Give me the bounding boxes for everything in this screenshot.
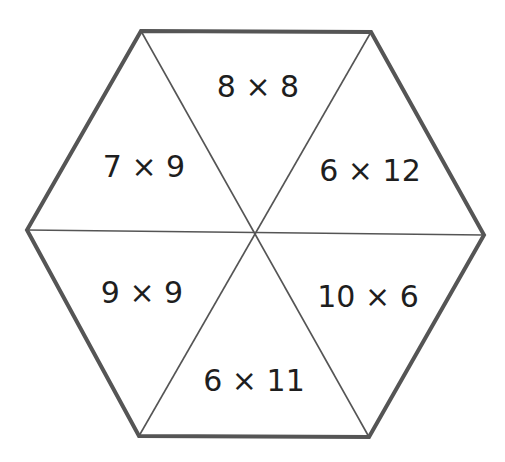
- segment-label-bottom: 6 × 11: [203, 363, 304, 398]
- segment-label-lower-right: 10 × 6: [317, 279, 418, 314]
- segment-label-upper-left: 7 × 9: [103, 149, 185, 184]
- segment-label-lower-left: 9 × 9: [101, 275, 183, 310]
- hexagon-diagram: 8 × 8 7 × 9 6 × 12 9 × 9 10 × 6 6 × 11: [0, 0, 505, 462]
- segment-label-upper-right: 6 × 12: [319, 153, 420, 188]
- segment-label-top: 8 × 8: [217, 69, 299, 104]
